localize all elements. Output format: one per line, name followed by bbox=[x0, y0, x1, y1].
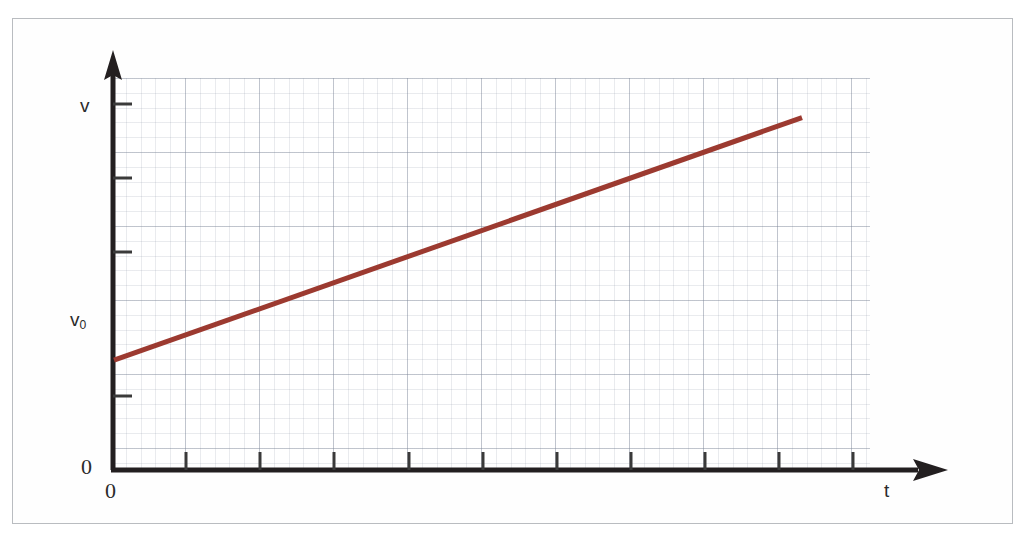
y-axis-origin-label: 0 bbox=[81, 456, 92, 478]
initial-velocity-symbol: v bbox=[70, 309, 80, 330]
initial-velocity-label: v0 bbox=[70, 310, 86, 329]
figure-root: v v0 0 0 t bbox=[0, 0, 1032, 540]
initial-velocity-subscript: 0 bbox=[80, 318, 87, 332]
x-axis-arrowhead-icon bbox=[913, 459, 948, 481]
y-axis-label: v bbox=[80, 96, 90, 115]
x-axis-group bbox=[111, 459, 948, 481]
x-axis-origin-label: 0 bbox=[105, 480, 116, 502]
y-axis-ticks bbox=[113, 104, 132, 396]
x-axis-ticks bbox=[186, 452, 853, 470]
plot-canvas bbox=[0, 0, 1032, 540]
y-axis-group bbox=[104, 50, 122, 470]
x-axis-label: t bbox=[884, 481, 889, 500]
velocity-line-series bbox=[114, 118, 802, 361]
